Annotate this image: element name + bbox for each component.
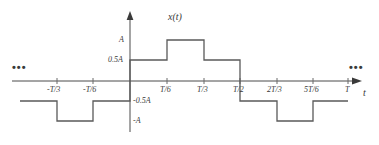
y-tick-label-neg-A: -A: [133, 117, 141, 125]
time-axis-label: t: [363, 88, 366, 98]
y-tick-label-A: A: [119, 36, 124, 44]
x-tick-label-neg-T-6: -T/6: [83, 86, 96, 94]
x-tick-label-2T-3: 2T/3: [267, 86, 282, 94]
signal-label: x(t): [168, 12, 182, 22]
x-tick-label-neg-T-3: -T/3: [47, 86, 60, 94]
y-tick-label-neg-half-A: -0.5A: [133, 97, 151, 105]
y-tick-label-half-A: 0.5A: [108, 56, 123, 64]
waveform-plot-svg: [0, 0, 379, 145]
waveform-figure: x(t) t A 0.5A -0.5A -A -T/3 -T/6 T/6 T/3…: [0, 0, 379, 145]
x-tick-label-5T-6: 5T/6: [304, 86, 319, 94]
left-continuation-ellipsis: •••: [12, 62, 27, 73]
x-tick-label-T: T: [345, 86, 349, 94]
x-tick-label-T-3: T/3: [197, 86, 208, 94]
right-continuation-ellipsis: •••: [349, 62, 364, 73]
x-tick-label-T-6: T/6: [160, 86, 171, 94]
x-tick-label-T-2: T/2: [233, 86, 244, 94]
y-axis-arrow-icon: [127, 11, 134, 20]
x-axis-arrow-icon: [352, 78, 362, 85]
